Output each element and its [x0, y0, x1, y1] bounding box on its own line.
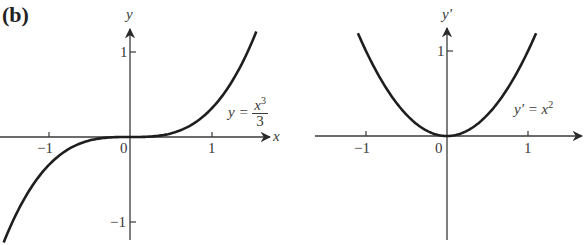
right-y-axis-label: y′ [442, 7, 452, 22]
right-equation: y′ = x2 [514, 100, 553, 117]
left-equation-denominator: 3 [252, 114, 268, 129]
left-x-tick-0: 0 [120, 141, 128, 156]
left-x-tick-1: 1 [208, 141, 216, 156]
left-equation-exponent: 3 [261, 95, 266, 106]
left-x-tick-neg1: −1 [37, 141, 53, 156]
left-equation: y = x3 3 [228, 96, 268, 129]
right-y-tick-1: 1 [437, 44, 445, 59]
left-y-tick-neg1: −1 [110, 215, 126, 230]
figure: (b) y x −1 0 1 1 −1 y = x3 3 y′ −1 0 1 1… [0, 0, 585, 245]
right-x-tick-0: 0 [435, 141, 443, 156]
right-x-tick-neg1: −1 [354, 141, 370, 156]
right-equation-exponent: 2 [548, 99, 553, 110]
left-y-axis-label: y [126, 7, 133, 22]
left-equation-lhs: y = [228, 104, 249, 120]
left-plot [0, 29, 270, 243]
plots-canvas [0, 0, 585, 245]
right-plot [315, 28, 582, 240]
left-x-axis-label: x [273, 129, 280, 144]
left-equation-numerator: x [254, 97, 261, 113]
right-equation-lhs: y′ = x [514, 101, 548, 117]
left-equation-fraction: x3 3 [252, 96, 268, 129]
right-x-tick-1: 1 [524, 141, 532, 156]
panel-label: (b) [2, 4, 29, 26]
left-y-tick-1: 1 [120, 45, 128, 60]
